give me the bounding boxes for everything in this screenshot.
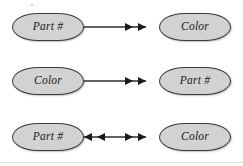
attribute-box-target-1[interactable]: Color [159, 13, 231, 41]
attribute-box-source-2[interactable]: Color [12, 67, 84, 95]
attribute-box-source-3[interactable]: Part # [12, 123, 84, 151]
dependency-row-2: Color Part # [0, 67, 243, 97]
dependency-row-1: Part # Color [0, 13, 243, 43]
diagram-canvas: Part # Color Color Part # [0, 0, 243, 166]
attribute-label: Color [181, 21, 209, 33]
scan-artifact-speck [31, 4, 33, 6]
attribute-label: Color [34, 75, 62, 87]
attribute-label: Color [181, 131, 209, 143]
dependency-arrow-1 [84, 13, 159, 41]
attribute-label: Part # [180, 75, 210, 87]
dependency-arrow-3 [84, 123, 159, 151]
dependency-arrow-2 [84, 67, 159, 95]
attribute-box-source-1[interactable]: Part # [12, 13, 84, 41]
attribute-box-target-2[interactable]: Part # [159, 67, 231, 95]
attribute-label: Part # [33, 131, 63, 143]
scan-artifact-bottom-line [0, 162, 243, 163]
dependency-row-3: Part # Color [0, 123, 243, 153]
attribute-box-target-3[interactable]: Color [159, 123, 231, 151]
attribute-label: Part # [33, 21, 63, 33]
